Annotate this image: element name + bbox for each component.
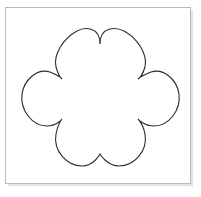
shape-layer <box>0 0 201 197</box>
flower-outline-path <box>22 29 179 166</box>
screenshot-canvas: Six petal flower outline <box>0 0 201 197</box>
flower-outline-svg <box>0 0 201 197</box>
